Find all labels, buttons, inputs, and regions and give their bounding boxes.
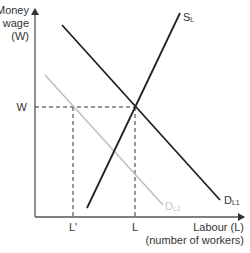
supply-curve-label: SL bbox=[183, 11, 194, 23]
labour-tick-label: L bbox=[132, 221, 138, 233]
x-axis-label-line1: Labour (L) bbox=[193, 221, 244, 233]
y-axis-label-line1: Money bbox=[0, 4, 29, 16]
labour-prime-tick-label: L' bbox=[69, 221, 77, 233]
x-axis-label-line2: (number of workers) bbox=[146, 234, 244, 246]
supply-curve-sl bbox=[87, 13, 180, 208]
demand-curve-dl1 bbox=[62, 25, 220, 200]
demand1-curve-label: DL1 bbox=[224, 194, 240, 206]
demand2-label-sub: L2 bbox=[173, 205, 181, 212]
demand2-label-main: D bbox=[165, 200, 173, 212]
wage-tick-label: W bbox=[17, 101, 28, 113]
demand-curve-dl2 bbox=[45, 75, 163, 205]
demand1-label-sub: L1 bbox=[232, 199, 240, 206]
demand2-curve-label: DL2 bbox=[165, 200, 181, 212]
y-axis-label-line2: wage bbox=[2, 17, 29, 29]
demand1-label-main: D bbox=[224, 194, 232, 206]
y-axis-label-line3: (W) bbox=[11, 30, 29, 42]
supply-label-sub: L bbox=[190, 16, 194, 23]
supply-label-main: S bbox=[183, 11, 190, 23]
labour-market-diagram: Money wage (W) W L' L Labour (L) (number… bbox=[0, 0, 250, 253]
